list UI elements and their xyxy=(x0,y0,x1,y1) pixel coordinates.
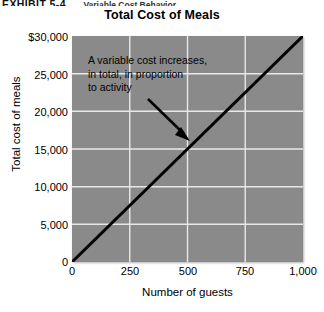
y-axis-tick-5000: 5,000 xyxy=(6,220,68,231)
annotation-line-2: in total, in proportion xyxy=(88,68,240,82)
annotation-line-1: A variable cost increases, xyxy=(88,54,240,68)
x-axis-tick-250: 250 xyxy=(100,266,160,277)
x-axis-tick-500: 500 xyxy=(158,266,218,277)
x-axis-tick-750: 750 xyxy=(215,266,275,277)
x-axis-tick-0: 0 xyxy=(42,266,102,277)
annotation-line-3: to activity xyxy=(88,81,240,95)
y-axis-title: Total cost of meals xyxy=(10,49,22,199)
exhibit-caption: Variable Cost Behavior xyxy=(83,0,176,6)
annotation-text: A variable cost increases, in total, in … xyxy=(88,54,240,95)
exhibit-header: EXHIBIT 5-4 Variable Cost Behavior xyxy=(2,0,302,6)
annotation-arrow-icon xyxy=(148,99,190,141)
chart-title: Total Cost of Meals xyxy=(0,8,324,22)
y-axis-tick-30000: $30,000 xyxy=(6,32,68,43)
x-axis-title: Number of guests xyxy=(72,286,303,298)
x-axis-tick-1000: 1,000 xyxy=(273,266,324,277)
exhibit-label: EXHIBIT 5-4 xyxy=(2,0,66,6)
